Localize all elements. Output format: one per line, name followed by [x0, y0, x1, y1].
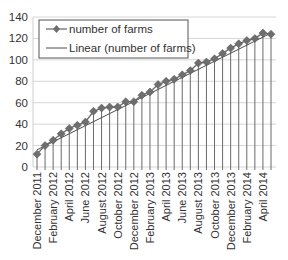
data-point — [235, 40, 243, 48]
data-point — [106, 103, 114, 111]
data-point — [267, 30, 275, 38]
data-point — [211, 55, 219, 63]
x-tick-label: April 2012 — [63, 172, 75, 222]
x-tick-label: October 2013 — [209, 172, 221, 239]
data-point — [178, 71, 186, 79]
x-tick-label: October 2012 — [112, 172, 124, 239]
y-tick-label: 80 — [15, 75, 28, 87]
y-tick-label: 100 — [9, 54, 28, 66]
y-tick-label: 140 — [9, 11, 28, 23]
farms-chart: 020406080100120140 December 2011February… — [0, 0, 288, 260]
x-tick-label: December 2011 — [31, 172, 43, 249]
y-tick-label: 0 — [22, 161, 28, 173]
x-tick-label: June 2013 — [176, 172, 188, 223]
x-tick-label: February 2014 — [241, 172, 253, 244]
y-tick-label: 20 — [15, 140, 28, 152]
y-tick-label: 120 — [9, 32, 28, 44]
y-tick-label: 40 — [15, 118, 28, 130]
x-axis-ticks: December 2011February 2012April 2012June… — [31, 172, 269, 250]
x-tick-label: December 2013 — [225, 172, 237, 250]
x-tick-label: February 2013 — [144, 172, 156, 244]
data-point — [202, 58, 210, 66]
x-tick-label: August 2012 — [96, 172, 108, 234]
x-tick-label: June 2012 — [79, 172, 91, 223]
data-point — [227, 44, 235, 52]
y-axis-ticks: 020406080100120140 — [9, 11, 28, 173]
data-point — [65, 124, 73, 132]
legend-label-trend: Linear (number of farms) — [69, 42, 196, 54]
x-tick-label: December 2012 — [128, 172, 140, 250]
x-tick-label: February 2012 — [47, 172, 59, 244]
y-tick-label: 60 — [15, 97, 28, 109]
data-point — [98, 104, 106, 112]
x-tick-label: April 2013 — [160, 172, 172, 222]
data-point — [114, 103, 122, 111]
legend: number of farms Linear (number of farms) — [39, 20, 196, 58]
x-tick-label: August 2013 — [192, 172, 204, 234]
x-tick-label: April 2014 — [257, 172, 269, 222]
legend-label-series: number of farms — [69, 23, 153, 35]
data-point — [170, 75, 178, 83]
data-point — [251, 34, 259, 42]
